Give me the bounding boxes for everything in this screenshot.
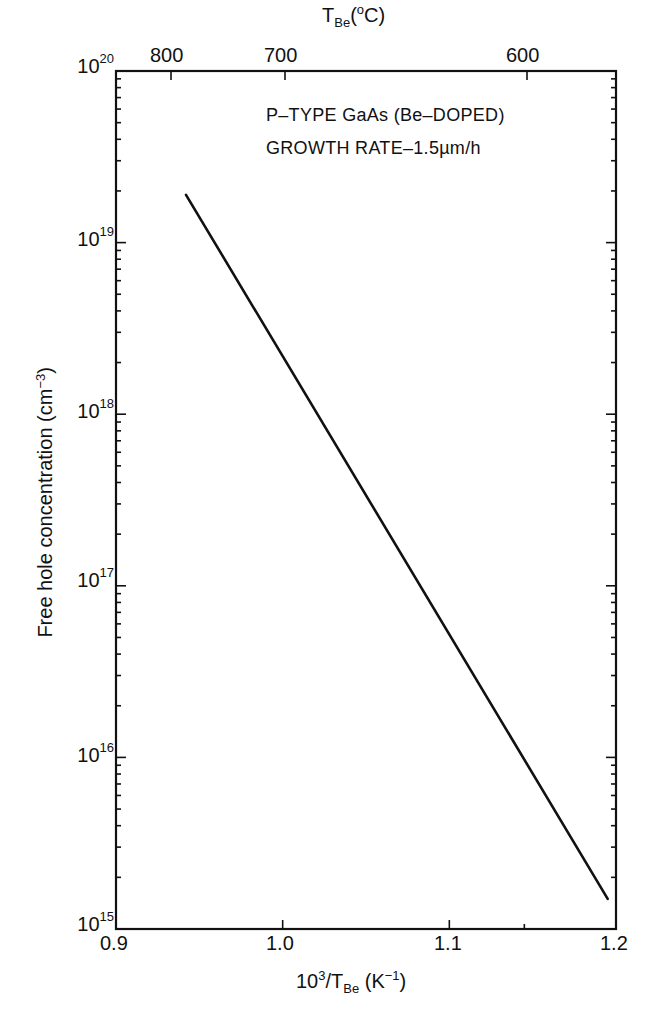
x-axis-title: 103/TBe (K−1) — [296, 968, 406, 996]
y-axis-title-exp: −3 — [33, 374, 48, 389]
x-axis-title-t: /T — [325, 970, 343, 992]
top-axis-title-unit: C) — [364, 4, 385, 26]
x-tick-label-0.9: 0.9 — [100, 932, 128, 955]
x-tick-label-1.0: 1.0 — [266, 932, 294, 955]
y-axis-ticks — [116, 79, 616, 929]
y-tick-label-1e20: 1020 — [60, 55, 114, 78]
plot-frame — [116, 71, 616, 929]
y-tick-exp: 17 — [100, 565, 114, 580]
y-tick-exp: 20 — [100, 51, 114, 66]
top-tick-label-700: 700 — [264, 44, 297, 67]
x-axis-title-sub: Be — [343, 981, 359, 996]
x-axis-title-close: ) — [400, 970, 407, 992]
annotation-sample-type: P–TYPE GaAs (Be–DOPED) — [266, 105, 505, 126]
top-axis-title: TBe(oC) — [322, 2, 385, 30]
y-tick-base: 10 — [77, 744, 99, 766]
y-tick-label-1e19: 1019 — [60, 228, 114, 251]
y-tick-base: 10 — [77, 228, 99, 250]
y-tick-exp: 19 — [100, 224, 114, 239]
top-tick-label-600: 600 — [506, 44, 539, 67]
top-axis-title-paren: ( — [350, 4, 357, 26]
y-tick-exp: 15 — [100, 909, 114, 924]
top-axis-title-degree: o — [357, 2, 364, 17]
y-axis-title-close: ) — [34, 367, 56, 374]
y-tick-exp: 18 — [100, 396, 114, 411]
y-tick-label-1e16: 1016 — [60, 744, 114, 767]
x-axis-ticks — [171, 71, 527, 929]
y-tick-exp: 16 — [100, 740, 114, 755]
y-axis-title: Free hole concentration (cm−3) — [33, 317, 58, 687]
x-axis-title-unit: (K — [359, 970, 385, 992]
top-axis-title-sub: Be — [334, 15, 350, 30]
y-tick-base: 10 — [77, 569, 99, 591]
top-tick-label-800: 800 — [150, 44, 183, 67]
x-tick-label-1.2: 1.2 — [600, 932, 628, 955]
data-line-hole-concentration — [186, 195, 608, 899]
x-axis-title-base: 10 — [296, 970, 318, 992]
y-tick-base: 10 — [77, 55, 99, 77]
y-tick-label-1e18: 1018 — [60, 400, 114, 423]
x-axis-title-unit-exp: −1 — [385, 968, 400, 983]
y-tick-base: 10 — [77, 400, 99, 422]
y-axis-title-text: Free hole concentration (cm — [34, 389, 56, 638]
x-tick-label-1.1: 1.1 — [434, 932, 462, 955]
annotation-growth-rate: GROWTH RATE–1.5µm/h — [266, 138, 481, 159]
y-tick-base: 10 — [77, 913, 99, 935]
y-tick-label-1e17: 1017 — [60, 569, 114, 592]
top-axis-title-t: T — [322, 4, 334, 26]
